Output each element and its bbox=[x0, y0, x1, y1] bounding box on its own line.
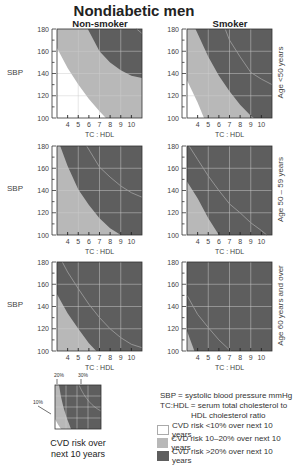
svg-text:120: 120 bbox=[37, 209, 49, 216]
risk-panel-non-smoker-row3: 10012014016018045678910TC : HDL bbox=[33, 258, 158, 377]
definition-tchdl-cont: HDL cholesterol ratio bbox=[160, 411, 293, 421]
svg-text:4: 4 bbox=[196, 121, 200, 128]
svg-text:10: 10 bbox=[127, 238, 135, 245]
svg-text:6: 6 bbox=[87, 238, 91, 245]
svg-text:4: 4 bbox=[196, 238, 200, 245]
svg-text:120: 120 bbox=[167, 325, 179, 332]
legend-item-high: CVD risk >20% over next 10 years bbox=[157, 449, 293, 462]
svg-text:140: 140 bbox=[167, 187, 179, 194]
row-label-age-60-plus: Age 60 years and over bbox=[276, 261, 285, 351]
svg-text:180: 180 bbox=[37, 143, 49, 150]
svg-text:6: 6 bbox=[217, 238, 221, 245]
svg-text:140: 140 bbox=[37, 303, 49, 310]
y-axis-label-row1: SBP bbox=[7, 68, 23, 77]
svg-text:9: 9 bbox=[119, 354, 123, 361]
mini-label-10: 10% bbox=[33, 399, 44, 405]
svg-text:140: 140 bbox=[37, 70, 49, 77]
legend: CVD risk <10% over next 10 years CVD ris… bbox=[157, 423, 293, 462]
svg-text:8: 8 bbox=[238, 238, 242, 245]
svg-text:100: 100 bbox=[37, 232, 49, 239]
svg-text:9: 9 bbox=[249, 121, 253, 128]
svg-text:120: 120 bbox=[167, 92, 179, 99]
svg-text:10: 10 bbox=[257, 238, 265, 245]
svg-text:4: 4 bbox=[66, 354, 70, 361]
svg-text:160: 160 bbox=[167, 165, 179, 172]
row-label-age-50-59: Age 50 – 59 years bbox=[276, 145, 285, 235]
row-label-age-under-50: Age <50 years bbox=[276, 28, 285, 118]
svg-text:140: 140 bbox=[37, 187, 49, 194]
svg-text:8: 8 bbox=[238, 121, 242, 128]
svg-text:9: 9 bbox=[119, 238, 123, 245]
legend-label-high: CVD risk >20% over next 10 years bbox=[172, 447, 293, 465]
svg-text:9: 9 bbox=[119, 121, 123, 128]
svg-text:160: 160 bbox=[37, 165, 49, 172]
svg-text:100: 100 bbox=[167, 115, 179, 122]
mini-caption: CVD risk over next 10 years bbox=[42, 438, 114, 460]
svg-text:160: 160 bbox=[167, 48, 179, 55]
svg-text:8: 8 bbox=[108, 238, 112, 245]
svg-text:5: 5 bbox=[206, 354, 210, 361]
svg-text:8: 8 bbox=[108, 354, 112, 361]
svg-text:160: 160 bbox=[167, 281, 179, 288]
svg-text:120: 120 bbox=[37, 325, 49, 332]
risk-panel-non-smoker-row1: 10012014016018045678910TC : HDL bbox=[33, 25, 158, 144]
svg-text:140: 140 bbox=[167, 303, 179, 310]
mini-label-20: 20% bbox=[54, 372, 65, 378]
svg-text:5: 5 bbox=[76, 121, 80, 128]
risk-panel-smoker-row3: 10012014016018045678910TC : HDL bbox=[163, 258, 288, 377]
svg-text:6: 6 bbox=[217, 121, 221, 128]
svg-text:6: 6 bbox=[87, 121, 91, 128]
mini-risk-key-chart: 20% 30% 10% bbox=[30, 368, 110, 438]
svg-text:TC : HDL: TC : HDL bbox=[215, 131, 244, 138]
svg-text:10: 10 bbox=[257, 354, 265, 361]
svg-text:8: 8 bbox=[108, 121, 112, 128]
svg-text:7: 7 bbox=[228, 238, 232, 245]
svg-text:6: 6 bbox=[217, 354, 221, 361]
legend-definitions: SBP = systolic blood pressure mmHg TC:HD… bbox=[160, 391, 293, 421]
svg-text:7: 7 bbox=[228, 354, 232, 361]
svg-text:4: 4 bbox=[196, 354, 200, 361]
y-axis-label-row2: SBP bbox=[7, 184, 23, 193]
swatch-low bbox=[157, 425, 169, 435]
svg-text:9: 9 bbox=[249, 238, 253, 245]
mini-caption-line1: CVD risk over bbox=[42, 438, 114, 449]
svg-text:5: 5 bbox=[76, 354, 80, 361]
svg-text:7: 7 bbox=[98, 121, 102, 128]
svg-text:160: 160 bbox=[37, 281, 49, 288]
definition-tchdl: TC:HDL = serum total cholesterol to bbox=[160, 401, 293, 411]
svg-text:100: 100 bbox=[37, 115, 49, 122]
svg-text:10: 10 bbox=[127, 354, 135, 361]
svg-text:5: 5 bbox=[206, 238, 210, 245]
swatch-high bbox=[157, 451, 169, 461]
svg-text:10: 10 bbox=[127, 121, 135, 128]
svg-text:10: 10 bbox=[257, 121, 265, 128]
mini-label-30: 30% bbox=[78, 372, 89, 378]
risk-panel-non-smoker-row2: 10012014016018045678910TC : HDL bbox=[33, 142, 158, 261]
svg-text:7: 7 bbox=[98, 238, 102, 245]
svg-text:9: 9 bbox=[249, 354, 253, 361]
chart-title: Nondiabetic men bbox=[0, 2, 293, 19]
svg-text:180: 180 bbox=[167, 26, 179, 33]
risk-panel-smoker-row1: 10012014016018045678910TC : HDL bbox=[163, 25, 288, 144]
svg-text:TC : HDL: TC : HDL bbox=[85, 131, 114, 138]
svg-text:8: 8 bbox=[238, 354, 242, 361]
svg-text:140: 140 bbox=[167, 70, 179, 77]
svg-text:6: 6 bbox=[87, 354, 91, 361]
svg-text:100: 100 bbox=[167, 232, 179, 239]
svg-text:180: 180 bbox=[37, 259, 49, 266]
svg-text:5: 5 bbox=[206, 121, 210, 128]
svg-text:180: 180 bbox=[167, 143, 179, 150]
svg-text:7: 7 bbox=[228, 121, 232, 128]
svg-text:100: 100 bbox=[37, 348, 49, 355]
svg-text:120: 120 bbox=[37, 92, 49, 99]
mini-caption-line2: next 10 years bbox=[42, 449, 114, 460]
svg-text:4: 4 bbox=[66, 238, 70, 245]
y-axis-label-row3: SBP bbox=[7, 300, 23, 309]
svg-text:180: 180 bbox=[167, 259, 179, 266]
svg-text:TC : HDL: TC : HDL bbox=[215, 364, 244, 371]
svg-text:120: 120 bbox=[167, 209, 179, 216]
svg-text:160: 160 bbox=[37, 48, 49, 55]
svg-text:180: 180 bbox=[37, 26, 49, 33]
svg-text:5: 5 bbox=[76, 238, 80, 245]
svg-text:TC : HDL: TC : HDL bbox=[215, 248, 244, 255]
